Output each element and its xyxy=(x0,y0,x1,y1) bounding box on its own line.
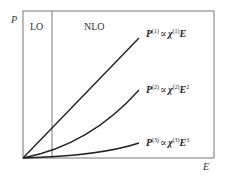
curve-linear xyxy=(23,38,139,158)
y-axis-label: P xyxy=(11,15,17,25)
region-label-nlo: NLO xyxy=(84,22,105,32)
equation-third-order: P(3)∝χ(3)E3 xyxy=(146,138,189,148)
region-label-lo: LO xyxy=(30,22,43,32)
equation-second-order: P(2)∝χ(2)E2 xyxy=(146,85,189,95)
x-axis-label: E xyxy=(203,162,209,172)
curve-cubic xyxy=(23,143,139,158)
equation-first-order: P(1)∝χ(1)E xyxy=(146,29,186,39)
